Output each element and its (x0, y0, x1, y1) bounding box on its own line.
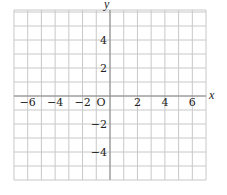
x-tick-label: 6 (189, 96, 196, 109)
y-tick-label: 4 (100, 34, 107, 47)
y-tick-label: −2 (91, 118, 107, 131)
coordinate-grid: x y O −6−4−2246 42−2−4 (0, 0, 227, 195)
y-tick-label: −4 (91, 146, 107, 159)
origin-label: O (96, 96, 105, 109)
y-tick-label: 2 (100, 62, 107, 75)
x-tick-label: 2 (134, 96, 141, 109)
x-tick-label: −2 (74, 96, 90, 109)
x-tick-label: −4 (47, 96, 63, 109)
x-tick-label: 4 (161, 96, 168, 109)
x-tick-labels: −6−4−2246 (20, 96, 196, 109)
y-axis-label: y (103, 0, 110, 11)
x-tick-label: −6 (20, 96, 36, 109)
x-axis-label: x (208, 88, 215, 102)
